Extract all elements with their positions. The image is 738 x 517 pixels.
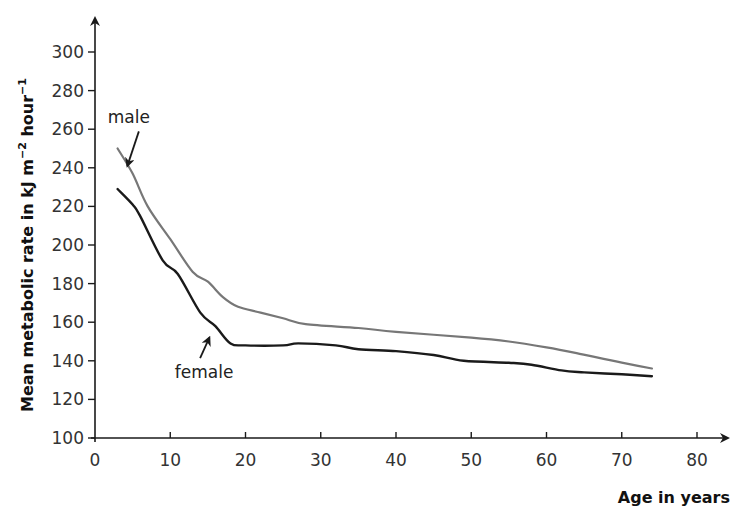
x-tick-label: 20	[235, 450, 257, 470]
y-tick-label: 260	[52, 119, 84, 139]
y-tick-label: 300	[52, 42, 84, 62]
x-tick-label: 40	[385, 450, 407, 470]
series-layer	[118, 149, 652, 377]
y-axis-title-main: Mean metabolic rate in kJ m	[18, 159, 37, 412]
x-tick-label: 50	[460, 450, 482, 470]
x-tick-label: 0	[90, 450, 101, 470]
male-series-line	[118, 149, 652, 369]
y-axis-title: Mean metabolic rate in kJ m−2 hour−1	[16, 78, 37, 412]
female-label: female	[175, 362, 234, 382]
x-tick-label: 80	[686, 450, 708, 470]
x-tick-label: 10	[159, 450, 181, 470]
female-arrow-icon	[200, 338, 209, 359]
y-tick-label: 160	[52, 312, 84, 332]
annotations: malefemale	[108, 107, 234, 382]
y-tick-label: 140	[52, 351, 84, 371]
y-tick-label: 120	[52, 389, 84, 409]
y-tick-label: 220	[52, 196, 84, 216]
y-axis-title-sup2: −1	[16, 78, 29, 95]
y-tick-label: 180	[52, 274, 84, 294]
x-axis-title: Age in years	[618, 488, 730, 507]
male-label: male	[108, 107, 150, 127]
x-tick-label: 60	[536, 450, 558, 470]
y-axis-title-sup1: −2	[16, 142, 29, 159]
y-tick-label: 200	[52, 235, 84, 255]
y-tick-label: 280	[52, 81, 84, 101]
y-axis-ticks: 100120140160180200220240260280300	[52, 42, 95, 448]
y-tick-label: 240	[52, 158, 84, 178]
female-series-line	[118, 189, 652, 376]
y-axis-title-mid: hour	[18, 95, 37, 142]
x-tick-label: 30	[310, 450, 332, 470]
male-arrow-icon	[127, 131, 139, 165]
y-tick-label: 100	[52, 428, 84, 448]
line-chart: 100120140160180200220240260280300 010203…	[0, 0, 738, 517]
x-tick-label: 70	[611, 450, 633, 470]
